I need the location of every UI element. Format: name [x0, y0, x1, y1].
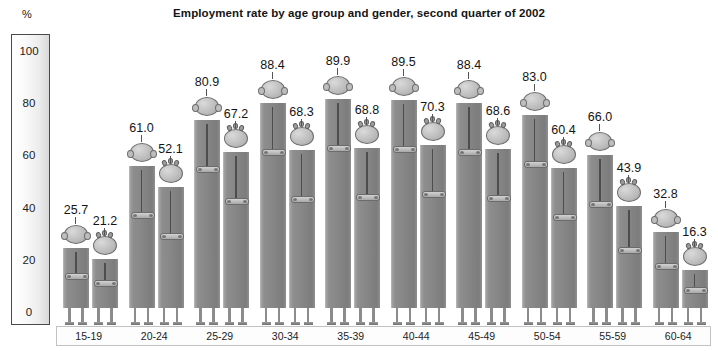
bar-group-25-29: 80.967.2	[187, 34, 253, 325]
necktie-icon	[141, 170, 143, 214]
hair-tuft-icon	[422, 117, 429, 125]
leg-icon	[199, 308, 202, 322]
foot-icon	[500, 322, 509, 326]
necktie-icon	[366, 152, 368, 196]
leg-icon	[359, 308, 362, 322]
male-head-icon	[457, 80, 481, 99]
label-leader-line	[628, 175, 629, 182]
body-bar[interactable]	[354, 148, 380, 308]
foot-icon	[422, 322, 431, 326]
bar-group-30-34: 88.468.3	[253, 34, 319, 325]
body-bar[interactable]	[92, 259, 118, 308]
leg-icon	[134, 308, 137, 322]
body-bar[interactable]	[485, 149, 511, 308]
foot-icon	[524, 322, 533, 326]
hands-belt-icon	[524, 161, 548, 168]
value-label: 16.3	[670, 225, 718, 239]
necktie-icon	[432, 149, 434, 193]
hands-belt-icon	[160, 233, 184, 240]
value-label: 32.8	[641, 187, 691, 201]
body-bar[interactable]	[194, 120, 220, 308]
body-bar[interactable]	[653, 232, 679, 308]
body-bar[interactable]	[551, 168, 577, 308]
body-bar[interactable]	[420, 145, 446, 308]
male-head-icon	[588, 132, 612, 151]
body-bar[interactable]	[63, 248, 89, 308]
body-bar[interactable]	[682, 270, 708, 308]
body-bar[interactable]	[325, 99, 351, 308]
body-bar[interactable]	[456, 103, 482, 308]
label-leader-line	[337, 68, 338, 75]
x-axis-label-30-34: 30-34	[253, 327, 319, 345]
body-bar[interactable]	[260, 103, 286, 308]
hair-tuft-icon	[697, 242, 704, 249]
body-bar[interactable]	[522, 115, 548, 308]
foot-icon	[144, 322, 153, 326]
hair-tuft-icon	[369, 121, 376, 128]
hands-belt-icon	[618, 247, 642, 254]
hair-tuft-icon	[684, 242, 691, 250]
foot-icon	[631, 322, 640, 326]
necktie-icon	[301, 154, 303, 198]
necktie-icon	[104, 263, 106, 282]
foot-icon	[487, 322, 496, 326]
chart-title: Employment rate by age group and gender,…	[0, 7, 718, 19]
necktie-icon	[665, 236, 667, 265]
body-bar[interactable]	[587, 155, 613, 308]
foot-icon	[94, 322, 103, 326]
body-bar[interactable]	[129, 166, 155, 308]
foot-icon	[553, 322, 562, 326]
foot-icon	[618, 322, 627, 326]
value-label: 89.9	[313, 54, 363, 68]
female-head-icon	[617, 183, 641, 202]
leg-icon	[97, 308, 100, 322]
foot-icon	[393, 322, 402, 326]
hair-tuft-icon	[553, 140, 560, 148]
y-axis-scale-box	[11, 34, 50, 325]
hands-belt-icon	[131, 212, 155, 219]
value-label: 88.4	[248, 58, 298, 72]
label-leader-line	[75, 217, 76, 224]
foot-icon	[684, 322, 693, 326]
body-bar[interactable]	[158, 187, 184, 308]
value-label: 80.9	[182, 75, 232, 89]
hair-tuft-icon	[435, 117, 442, 124]
hands-belt-icon	[291, 196, 315, 203]
y-axis-tick-60: 60	[11, 149, 47, 161]
label-leader-line	[497, 118, 498, 125]
label-leader-line	[432, 114, 433, 121]
leg-icon	[294, 308, 297, 322]
hair-tuft-icon	[238, 124, 245, 131]
leg-icon	[671, 308, 674, 322]
foot-icon	[537, 322, 546, 326]
foot-icon	[566, 322, 575, 326]
label-leader-line	[206, 89, 207, 96]
body-bar[interactable]	[616, 206, 642, 308]
leg-icon	[556, 308, 559, 322]
leg-icon	[228, 308, 231, 322]
label-leader-line	[272, 72, 273, 79]
foot-icon	[589, 322, 598, 326]
body-bar[interactable]	[223, 152, 249, 308]
leg-icon	[687, 308, 690, 322]
value-label: 88.4	[444, 58, 494, 72]
body-bar[interactable]	[391, 100, 417, 308]
male-head-icon	[64, 225, 88, 244]
x-axis-label-25-29: 25-29	[187, 327, 253, 345]
leg-icon	[147, 308, 150, 322]
necktie-icon	[170, 191, 172, 235]
necktie-icon	[235, 156, 237, 200]
hair-tuft-icon	[357, 121, 364, 129]
leg-icon	[503, 308, 506, 322]
leg-icon	[307, 308, 310, 322]
body-bar[interactable]	[289, 150, 315, 308]
hair-tuft-icon	[619, 178, 626, 186]
leg-icon	[110, 308, 113, 322]
necktie-icon	[272, 107, 274, 151]
female-head-icon	[93, 236, 117, 255]
x-axis-label-20-24: 20-24	[122, 327, 188, 345]
leg-icon	[438, 308, 441, 322]
hands-belt-icon	[655, 263, 679, 270]
hands-belt-icon	[196, 166, 220, 173]
female-head-icon	[159, 164, 183, 183]
